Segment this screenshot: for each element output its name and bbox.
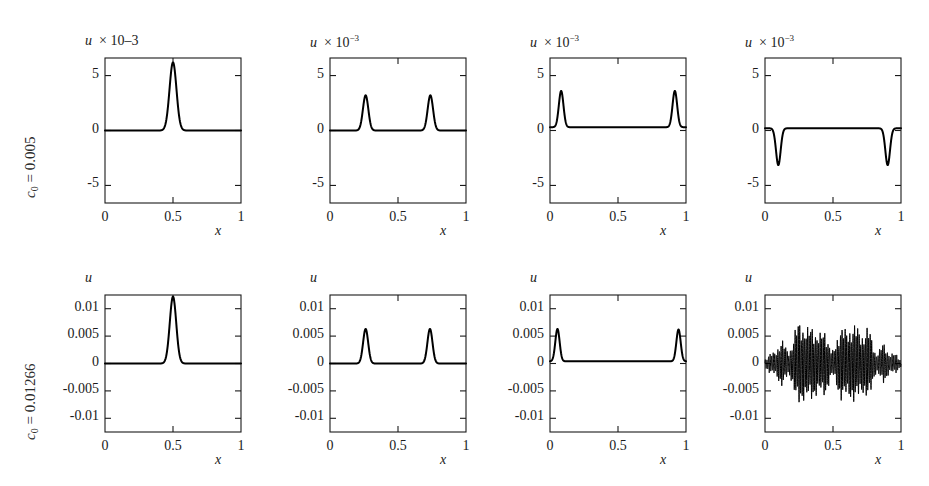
data-curve — [330, 95, 466, 130]
y-tick-label: -5 — [703, 175, 759, 191]
y-tick-label: 5 — [703, 66, 759, 82]
row-label-1-symbol: c — [22, 433, 38, 440]
plot-frame — [330, 295, 466, 432]
plot-frame — [105, 295, 241, 432]
plot-panel-r2c4: u0.010.0050-0.005-0.0100.51x — [0, 0, 929, 486]
x-tick-label: 0.5 — [818, 438, 848, 454]
y-tick-label: -0.01 — [703, 408, 759, 424]
x-axis-label: x — [875, 452, 881, 468]
x-axis-label: x — [215, 223, 221, 239]
plot-svg-r1c4 — [0, 0, 929, 486]
y-tick-label: 0 — [703, 354, 759, 370]
row-label-1: c0 = 0.01266 — [22, 364, 40, 440]
panel-title-r2c2: u — [310, 270, 317, 286]
plot-panel-r1c4: u × 10−350-500.51x — [0, 0, 929, 486]
y-tick-label: -5 — [268, 175, 324, 191]
y-tick-label: 0 — [488, 121, 544, 137]
plot-panel-r2c1: u0.010.0050-0.005-0.0100.51x — [0, 0, 929, 486]
y-tick-label: 0 — [488, 354, 544, 370]
plot-panel-r2c2: u0.010.0050-0.005-0.0100.51x — [0, 0, 929, 486]
x-axis-label: x — [660, 452, 666, 468]
x-tick-label: 1 — [671, 209, 701, 225]
y-tick-label: -5 — [488, 175, 544, 191]
plot-svg-r2c1 — [0, 0, 929, 486]
x-tick-label: 0 — [315, 438, 345, 454]
x-tick-label: 0 — [315, 209, 345, 225]
data-curve — [330, 329, 466, 364]
row-label-1-value: = 0.01266 — [22, 364, 38, 429]
x-tick-label: 1 — [451, 209, 481, 225]
y-tick-label: 0.005 — [268, 326, 324, 342]
plot-svg-r1c3 — [0, 0, 929, 486]
data-curve — [765, 128, 901, 165]
data-curve — [550, 329, 686, 361]
plot-frame — [765, 58, 901, 203]
plot-panel-r1c1: u × 10–350-500.51x — [0, 0, 929, 486]
panel-title-r2c3: u — [530, 270, 537, 286]
data-curve — [105, 62, 241, 130]
row-label-0: c0 = 0.005 — [22, 137, 40, 198]
panel-title-r2c4: u — [745, 270, 752, 286]
x-axis-label: x — [215, 452, 221, 468]
y-tick-label: 0.005 — [703, 326, 759, 342]
plot-svg-r2c3 — [0, 0, 929, 486]
plot-frame — [330, 58, 466, 203]
y-tick-label: 5 — [268, 66, 324, 82]
y-tick-label: -5 — [43, 175, 99, 191]
y-tick-label: 0.01 — [703, 299, 759, 315]
x-tick-label: 1 — [886, 438, 916, 454]
y-tick-label: 0.01 — [43, 299, 99, 315]
x-tick-label: 1 — [226, 438, 256, 454]
row-label-1-subscript: 0 — [29, 428, 40, 433]
plot-panel-r1c2: u × 10−350-500.51x — [0, 0, 929, 486]
y-tick-label: -0.005 — [703, 381, 759, 397]
y-tick-label: 0 — [268, 121, 324, 137]
x-tick-label: 0 — [535, 209, 565, 225]
panel-title-r1c2: u × 10−3 — [310, 33, 359, 51]
x-tick-label: 1 — [451, 438, 481, 454]
y-tick-label: -0.005 — [488, 381, 544, 397]
x-tick-label: 0.5 — [603, 209, 633, 225]
y-tick-label: -0.005 — [268, 381, 324, 397]
x-axis-label: x — [440, 223, 446, 239]
x-axis-label: x — [660, 223, 666, 239]
x-tick-label: 0.5 — [383, 438, 413, 454]
data-curve — [765, 325, 901, 402]
data-curve — [550, 91, 686, 127]
plot-frame — [765, 295, 901, 432]
panel-title-r1c4: u × 10−3 — [745, 33, 794, 51]
y-tick-label: -0.01 — [268, 408, 324, 424]
plot-svg-r2c4 — [0, 0, 929, 486]
y-tick-label: -0.01 — [488, 408, 544, 424]
plot-svg-r1c2 — [0, 0, 929, 486]
x-tick-label: 0 — [90, 438, 120, 454]
x-tick-label: 1 — [886, 209, 916, 225]
plot-frame — [105, 58, 241, 203]
x-axis-label: x — [875, 223, 881, 239]
x-tick-label: 0.5 — [603, 438, 633, 454]
x-tick-label: 0 — [750, 209, 780, 225]
y-tick-label: 0.005 — [43, 326, 99, 342]
row-label-0-value: = 0.005 — [22, 137, 38, 187]
y-tick-label: 0.005 — [488, 326, 544, 342]
panel-title-r1c1: u × 10–3 — [85, 33, 138, 49]
y-tick-label: 0 — [43, 121, 99, 137]
y-tick-label: 0 — [43, 354, 99, 370]
y-tick-label: 0 — [703, 121, 759, 137]
panel-title-r1c3: u × 10−3 — [530, 33, 579, 51]
x-axis-label: x — [440, 452, 446, 468]
row-label-0-subscript: 0 — [29, 186, 40, 191]
plot-frame — [550, 295, 686, 432]
x-tick-label: 0 — [535, 438, 565, 454]
plot-svg-r1c1 — [0, 0, 929, 486]
x-tick-label: 1 — [226, 209, 256, 225]
plot-panel-r1c3: u × 10−350-500.51x — [0, 0, 929, 486]
x-tick-label: 0 — [90, 209, 120, 225]
y-tick-label: 0 — [268, 354, 324, 370]
plot-panel-r2c3: u0.010.0050-0.005-0.0100.51x — [0, 0, 929, 486]
row-label-0-symbol: c — [22, 191, 38, 198]
x-tick-label: 0.5 — [158, 209, 188, 225]
x-tick-label: 0.5 — [818, 209, 848, 225]
y-tick-label: 5 — [43, 66, 99, 82]
y-tick-label: 0.01 — [268, 299, 324, 315]
